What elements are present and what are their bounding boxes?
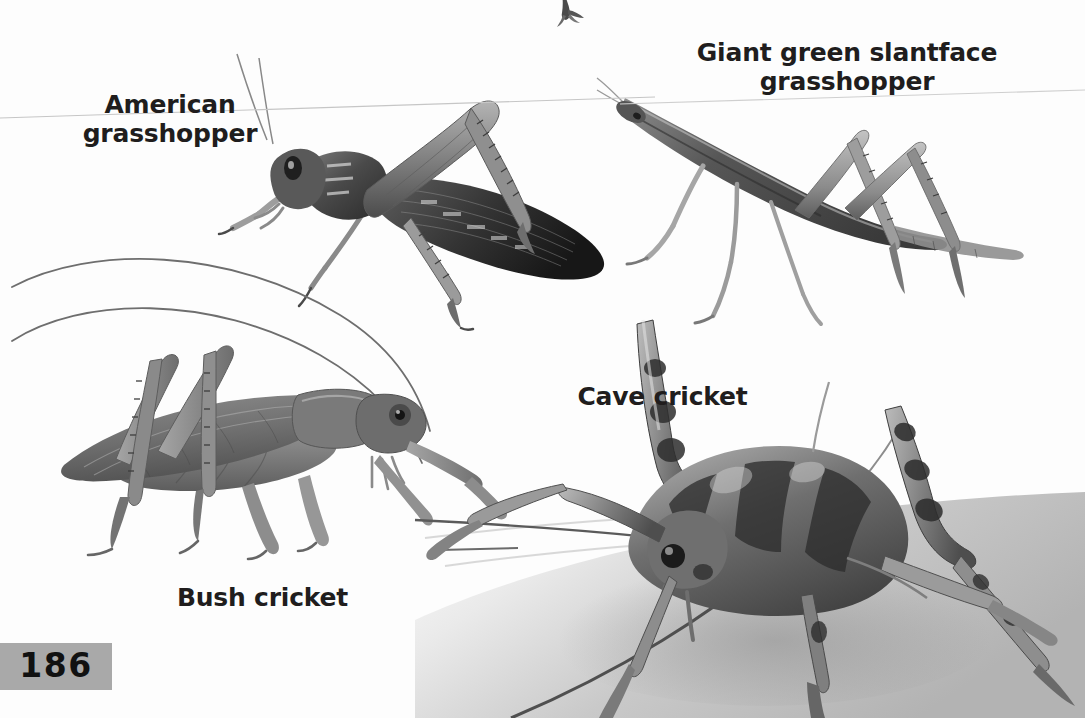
figure-giant-green-slantface-grasshopper bbox=[595, 60, 1065, 325]
label-cave-cricket: Cave cricket bbox=[540, 382, 785, 411]
label-bush-cricket: Bush cricket bbox=[140, 583, 385, 612]
page-number: 186 bbox=[19, 646, 92, 685]
book-page: American grasshopper Giant green slantfa… bbox=[0, 0, 1085, 718]
label-american-grasshopper: American grasshopper bbox=[40, 90, 300, 148]
label-giant-green-slantface-grasshopper: Giant green slantface grasshopper bbox=[652, 38, 1042, 96]
page-number-badge: 186 bbox=[0, 643, 112, 690]
figure-top-edge-fragment bbox=[540, 0, 600, 34]
figure-cave-cricket bbox=[415, 320, 1085, 718]
